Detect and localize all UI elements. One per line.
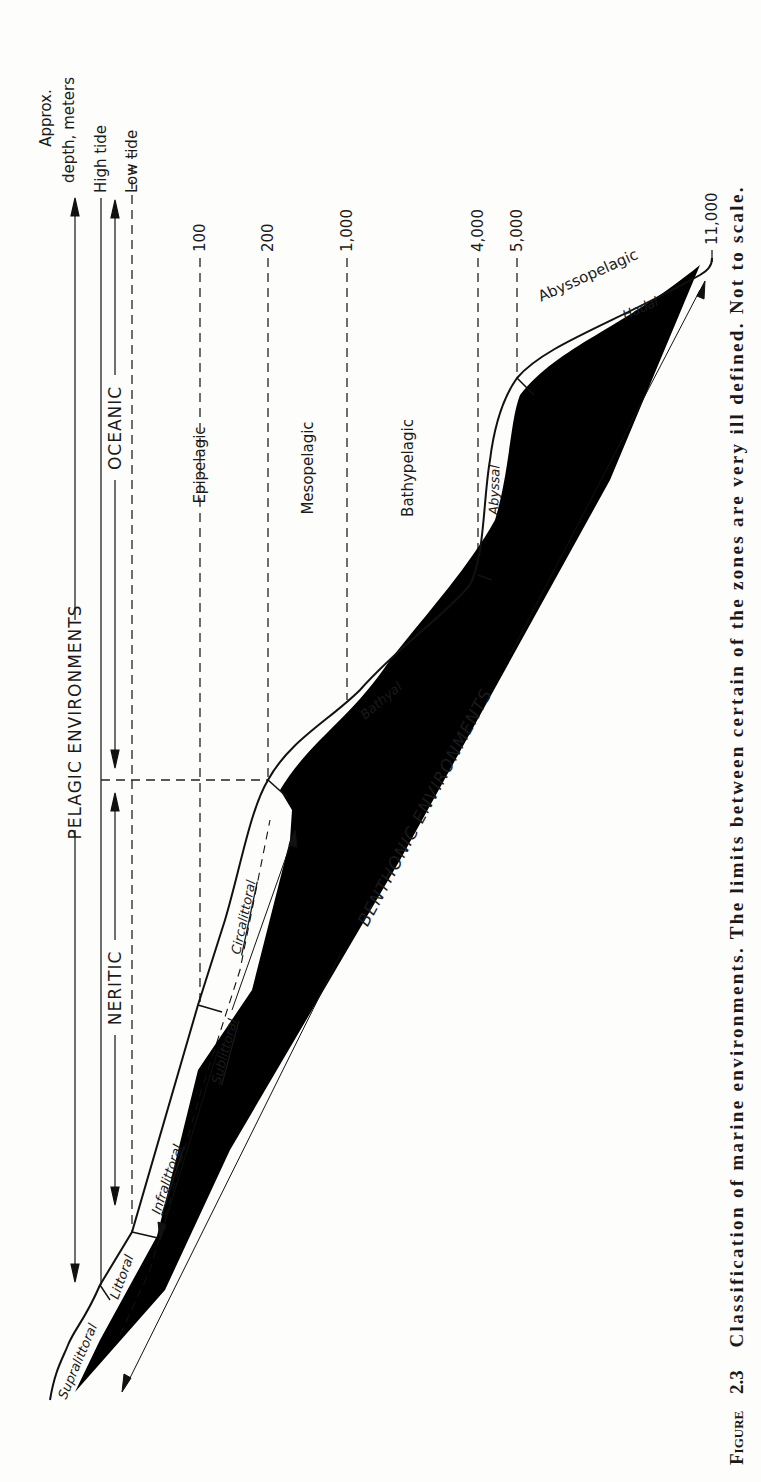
infralittoral-circalittoral-divider <box>198 1005 222 1012</box>
neritic-label: NERITIC <box>105 951 125 1026</box>
depth-100-label: 100 <box>191 223 209 252</box>
oceanic-arrow <box>111 200 119 768</box>
epipelagic-label: Epipelagic <box>191 426 209 503</box>
arrowhead-up-icon <box>697 281 705 299</box>
littoral-divider <box>132 1232 158 1238</box>
arrowhead-down-icon <box>111 1187 119 1205</box>
abyssopelagic-label: Abyssopelagic <box>535 245 641 305</box>
depth-200-label: 200 <box>259 223 277 252</box>
pelagic-label: PELAGIC ENVIRONMENTS <box>65 605 85 840</box>
arrowhead-down-icon <box>71 1264 79 1282</box>
depth-5000-label: 5,000 <box>508 209 526 252</box>
depth-1000-label: 1,000 <box>338 209 356 252</box>
high-tide-label: High tide <box>92 125 110 193</box>
svg-text:Figure 2.3 Classif: Figure 2.3 Classification of marine envi… <box>726 188 747 1465</box>
figure-number: 2.3 <box>726 1370 747 1394</box>
figure-prefix: Figure <box>726 1411 747 1465</box>
seafloor-wedge <box>75 265 700 1392</box>
arrowhead-down-icon <box>122 1374 131 1392</box>
depth-labels: Approx. depth, meters High tide Low tide… <box>37 77 721 252</box>
depth-4000-label: 4,000 <box>469 209 487 252</box>
depth-11000-label: 11,000 <box>703 193 721 246</box>
abyssal-label: Abyssal <box>486 464 503 516</box>
arrowhead-down-icon <box>111 750 119 768</box>
depth-header-line2: depth, meters <box>60 77 78 183</box>
arrowhead-up-icon <box>71 198 79 216</box>
bathypelagic-label: Bathypelagic <box>399 419 417 517</box>
figure-caption: Figure 2.3 Classification of marine envi… <box>726 188 747 1465</box>
depth-header-line1: Approx. <box>37 89 55 147</box>
arrowhead-up-icon <box>111 793 119 811</box>
mesopelagic-label: Mesopelagic <box>299 421 317 514</box>
oceanic-label: OCEANIC <box>105 386 125 470</box>
low-tide-label: Low tide <box>123 130 141 193</box>
marine-environments-diagram: Approx. depth, meters High tide Low tide… <box>0 0 761 1482</box>
figure-caption-text: Classification of marine environments. T… <box>726 188 747 1348</box>
arrowhead-up-icon <box>111 200 119 218</box>
